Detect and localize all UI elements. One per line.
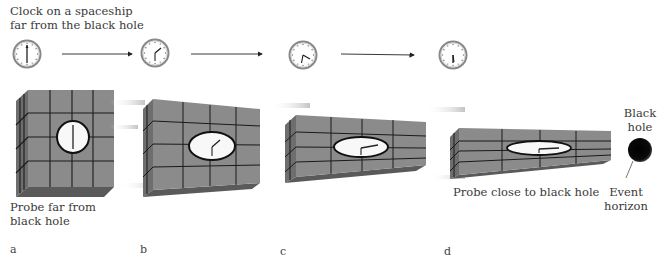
panel-label-a: a [10,243,17,256]
black-hole-label: Black hole [622,106,658,134]
event-horizon-label: Event horizon [604,185,648,213]
arrow-c-d [341,54,414,55]
spaceship-clock-c-icon [290,42,317,69]
panel-label-c: c [280,245,286,258]
spaceship-clock-sequence [0,30,480,80]
probe-a [16,90,114,197]
probe-clock-d-icon [507,141,571,155]
probe-d [425,107,611,179]
probe-b [110,99,260,197]
event-horizon-pointer [626,161,633,178]
panel-label-b: b [140,243,147,256]
probe-clock-a-icon [57,121,89,153]
black-hole-icon [626,138,652,178]
panel-label-d: d [444,245,451,258]
probe-clock-c-icon [334,137,388,157]
probe-far-label: Probe far from black hole [10,200,96,228]
probe-clock-b-icon [189,132,235,160]
spaceship-clock-caption: Clock on a spaceship far from the black … [10,4,144,32]
spaceship-clock-b-icon [142,40,169,67]
probe-close-label: Probe close to black hole [453,185,599,199]
spaceship-clock-a-icon [14,41,41,68]
probe-c [270,103,426,183]
spaceship-clock-d-icon [440,42,467,69]
